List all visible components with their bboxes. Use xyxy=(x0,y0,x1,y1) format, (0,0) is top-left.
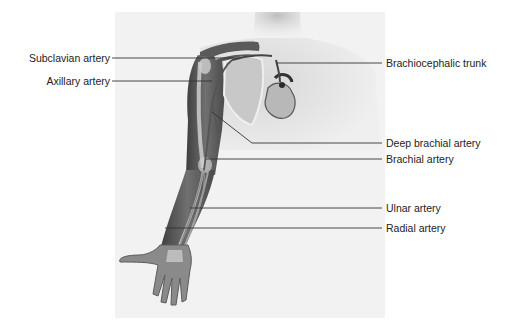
label-deep-brachial-artery: Deep brachial artery xyxy=(386,137,481,149)
label-brachial-artery: Brachial artery xyxy=(386,153,454,165)
label-brachiocephalic-trunk: Brachiocephalic trunk xyxy=(386,57,486,69)
humeral-head xyxy=(199,58,211,74)
label-ulnar-artery: Ulnar artery xyxy=(386,202,441,214)
label-axillary-artery: Axillary artery xyxy=(46,75,110,87)
label-subclavian-artery: Subclavian artery xyxy=(29,52,110,64)
artery-diagram: Subclavian artery Axillary artery Brachi… xyxy=(0,0,514,331)
anatomy-illustration xyxy=(0,0,514,331)
label-radial-artery: Radial artery xyxy=(386,222,446,234)
